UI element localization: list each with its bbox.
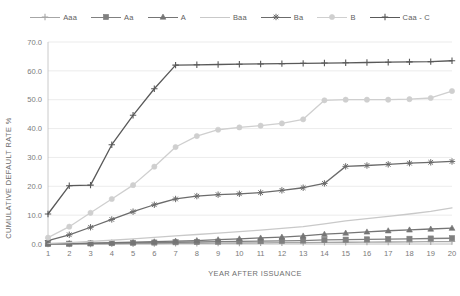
data-point-marker (109, 196, 114, 201)
x-axis-tick-label: 2 (67, 249, 71, 258)
data-point-marker (428, 95, 433, 100)
data-point-marker (194, 62, 200, 68)
x-axis-ticks: 1234567891011121314151617181920 (46, 249, 456, 258)
y-axis-tick-label: 60.0 (27, 67, 42, 76)
x-axis-tick-label: 9 (216, 249, 220, 258)
data-point-marker (428, 236, 433, 241)
data-point-marker (279, 121, 284, 126)
data-point-marker (385, 161, 391, 167)
data-point-marker (364, 59, 370, 65)
legend-item-baa[interactable]: Baa (200, 12, 247, 23)
data-point-marker (386, 236, 391, 241)
y-axis-tick-label: 30.0 (27, 153, 42, 162)
x-axis-tick-label: 18 (405, 249, 413, 258)
y-axis-tick-label: 70.0 (27, 38, 42, 47)
legend-item-ba[interactable]: Ba (261, 12, 304, 23)
data-point-marker (279, 60, 285, 66)
data-point-marker (321, 60, 327, 66)
x-axis-tick-label: 4 (110, 249, 114, 258)
legend-item-a[interactable]: A (148, 12, 186, 23)
x-axis-tick-label: 7 (173, 249, 177, 258)
data-point-marker (257, 189, 263, 195)
data-point-marker (386, 97, 391, 102)
legend-label: Caa - C (403, 13, 430, 22)
y-axis-tick-label: 0.0 (31, 240, 42, 249)
legend-label: Aaa (63, 13, 77, 22)
data-point-marker (151, 202, 157, 208)
data-point-marker (87, 182, 93, 188)
legend-swatch-icon (91, 12, 121, 23)
data-point-marker (449, 58, 455, 64)
legend-swatch-icon (30, 12, 60, 23)
data-point-marker (301, 238, 306, 243)
data-point-marker (321, 180, 327, 186)
x-axis-tick-label: 17 (384, 249, 392, 258)
data-point-marker (300, 185, 306, 191)
legend-swatch-icon (148, 12, 178, 23)
data-point-marker (385, 59, 391, 65)
legend-marker-square-icon (102, 13, 110, 21)
data-point-marker (300, 60, 306, 66)
data-point-marker (236, 61, 242, 67)
x-axis-tick-label: 15 (341, 249, 349, 258)
data-point-marker (364, 237, 369, 242)
data-point-marker (216, 127, 221, 132)
legend-swatch-icon (200, 12, 230, 23)
legend-marker-circle-icon (328, 13, 336, 21)
data-point-marker (343, 97, 348, 102)
data-point-marker (173, 144, 178, 149)
y-axis-ticks: 0.010.020.030.040.050.060.070.0 (27, 38, 42, 249)
data-point-marker (103, 14, 108, 19)
legend-item-caa-c[interactable]: Caa - C (370, 12, 430, 23)
data-point-marker (428, 58, 434, 64)
x-axis-tick-label: 3 (88, 249, 92, 258)
chart-plot-area: 0.010.020.030.040.050.060.070.0 12345678… (0, 28, 460, 296)
legend-item-aaa[interactable]: Aaa (30, 12, 77, 23)
legend-swatch-icon (370, 12, 400, 23)
data-point-marker (194, 193, 200, 199)
y-axis-tick-label: 10.0 (27, 211, 42, 220)
legend-label: Ba (294, 13, 304, 22)
data-point-marker (279, 187, 285, 193)
legend-item-aa[interactable]: Aa (91, 12, 134, 23)
data-point-marker (449, 236, 454, 241)
data-point-marker (172, 196, 178, 202)
data-point-marker (364, 97, 369, 102)
x-axis-tick-label: 20 (448, 249, 456, 258)
legend-marker-plus-icon (381, 13, 389, 21)
x-axis-tick-label: 14 (320, 249, 328, 258)
data-point-marker (236, 191, 242, 197)
data-point-marker (215, 191, 221, 197)
series-line (48, 61, 452, 214)
data-series (45, 58, 455, 248)
data-point-marker (160, 14, 166, 19)
gridlines (48, 42, 452, 244)
data-point-marker (449, 158, 455, 164)
legend-marker-star-icon (272, 13, 280, 21)
data-point-marker (406, 59, 412, 65)
data-point-marker (237, 125, 242, 130)
chart-legend: AaaAaABaaBaBCaa - C (0, 8, 460, 26)
data-point-marker (130, 183, 135, 188)
y-axis-tick-label: 20.0 (27, 182, 42, 191)
x-axis-tick-label: 16 (363, 249, 371, 258)
data-point-marker (364, 162, 370, 168)
data-point-marker (407, 97, 412, 102)
legend-line (200, 17, 230, 18)
x-axis-tick-label: 13 (299, 249, 307, 258)
legend-item-b[interactable]: B (317, 12, 355, 23)
legend-label: B (350, 13, 355, 22)
x-axis-tick-label: 1 (46, 249, 50, 258)
y-axis-tick-label: 40.0 (27, 124, 42, 133)
data-point-marker (407, 236, 412, 241)
x-axis-tick-label: 8 (195, 249, 199, 258)
data-point-marker (45, 235, 50, 240)
cumulative-default-rate-chart: AaaAaABaaBaBCaa - C 0.010.020.030.040.05… (0, 0, 460, 296)
data-point-marker (109, 216, 115, 222)
data-point-marker (406, 160, 412, 166)
data-point-marker (428, 159, 434, 165)
data-point-marker (66, 232, 72, 238)
legend-swatch-icon (261, 12, 291, 23)
x-axis-tick-label: 12 (278, 249, 286, 258)
x-axis-tick-label: 10 (235, 249, 243, 258)
